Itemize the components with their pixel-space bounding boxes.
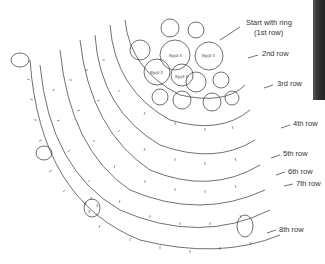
annotation-row-6: 6th row: [288, 167, 313, 176]
stitch-count: 3: [90, 196, 93, 201]
annotation-row-4: 4th row: [293, 119, 318, 128]
ring-label: 8(p)4:3: [202, 53, 215, 58]
ring-label: 8(p)4:3: [169, 53, 182, 58]
annotation-row-7: 7th row: [296, 179, 321, 188]
annotation-row-2: 2nd row: [262, 49, 289, 58]
edge-strip: [313, 0, 325, 100]
tatting-diagram: 8(p)4:3 8(p)4:3 8(p)4:3 8(p)4:3 3 3 3 3: [0, 0, 325, 264]
stitch-count: 3: [96, 203, 99, 208]
annotation-start: Start with ring: [246, 18, 292, 27]
ring-label: 8(p)4:3: [150, 70, 163, 75]
annotation-row-3: 3rd row: [277, 79, 302, 88]
annotation-row-5: 5th row: [283, 149, 308, 158]
ring-label: 8(p)4:3: [175, 74, 188, 79]
annotation-row-8: 8th row: [279, 225, 304, 234]
annotation-start-sub: (1st row): [254, 28, 283, 37]
